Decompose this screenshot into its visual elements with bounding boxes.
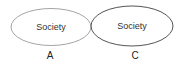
ellipse-node-c: Society C bbox=[91, 6, 173, 61]
ellipse-c-label: Society bbox=[117, 21, 147, 31]
caption-c: C bbox=[131, 50, 138, 61]
caption-a: A bbox=[47, 50, 54, 61]
ellipse-node-a: Society A bbox=[11, 9, 91, 62]
ellipse-a-label: Society bbox=[36, 22, 66, 32]
venn-diagram: Society A Society C bbox=[0, 0, 184, 63]
